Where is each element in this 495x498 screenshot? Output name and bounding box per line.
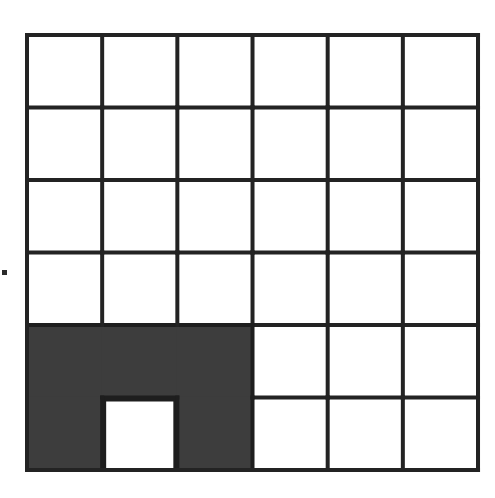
shaded-cell	[176, 324, 253, 399]
hole-rect	[104, 400, 175, 471]
grid-figure	[0, 0, 495, 498]
white-square-hole	[104, 400, 175, 471]
shaded-cell	[176, 397, 253, 472]
shaded-cell	[26, 397, 103, 472]
shaded-cell	[101, 324, 178, 399]
figure-root	[0, 0, 495, 498]
shaded-cell	[26, 324, 103, 399]
scan-speck-artifact	[2, 270, 7, 275]
